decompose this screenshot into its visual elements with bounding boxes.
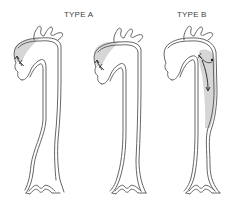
- iliac-bifurcation-inner: [29, 185, 55, 191]
- lesser-curvature-inner: [25, 64, 43, 190]
- aortic-dissection-diagram: [0, 0, 228, 205]
- iliac-bifurcation: [186, 189, 220, 194]
- lesser-curvature-inner: [180, 60, 195, 191]
- lesser-curvature: [172, 56, 198, 193]
- iliac-bifurcation: [26, 189, 60, 194]
- aorta-type-a-ascending: [14, 26, 64, 194]
- lesser-curvature: [102, 63, 126, 193]
- aorta-type-a-extended: [94, 28, 146, 194]
- arch-branches: [114, 28, 143, 42]
- flow-dot: [211, 59, 213, 61]
- iliac-bifurcation-inner: [115, 185, 141, 191]
- aorta-type-b: [164, 26, 220, 194]
- lesser-curvature-inner: [110, 68, 123, 191]
